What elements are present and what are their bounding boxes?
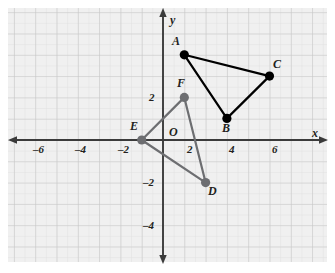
y-axis xyxy=(159,8,166,264)
coordinate-plane-figure: x y O –6 –4 –2 2 4 6 2 –2 –4 A B C D E F xyxy=(0,0,335,273)
y-tick--4: –4 xyxy=(143,219,154,231)
point-label-e: E xyxy=(130,119,138,134)
x-tick-2: 2 xyxy=(187,143,193,155)
point-c xyxy=(265,72,274,81)
origin-label: O xyxy=(169,125,178,140)
point-label-a: A xyxy=(172,34,180,49)
y-tick--2: –2 xyxy=(143,176,154,188)
x-tick--6: –6 xyxy=(33,143,44,155)
x-tick-4: 4 xyxy=(229,143,235,155)
point-e xyxy=(137,135,146,144)
x-tick--2: –2 xyxy=(118,143,129,155)
x-tick-6: 6 xyxy=(272,143,278,155)
point-f xyxy=(180,93,189,102)
y-axis-label: y xyxy=(170,13,175,28)
point-label-c: C xyxy=(273,57,281,72)
point-label-d: D xyxy=(208,184,217,199)
point-label-b: B xyxy=(222,121,230,136)
plot-overlay xyxy=(0,0,335,273)
y-tick-2: 2 xyxy=(149,91,155,103)
triangle-abc xyxy=(184,55,269,119)
x-axis xyxy=(8,136,328,143)
point-a xyxy=(180,50,189,59)
point-label-f: F xyxy=(177,76,185,91)
x-tick--4: –4 xyxy=(75,143,86,155)
x-axis-label: x xyxy=(312,126,318,141)
